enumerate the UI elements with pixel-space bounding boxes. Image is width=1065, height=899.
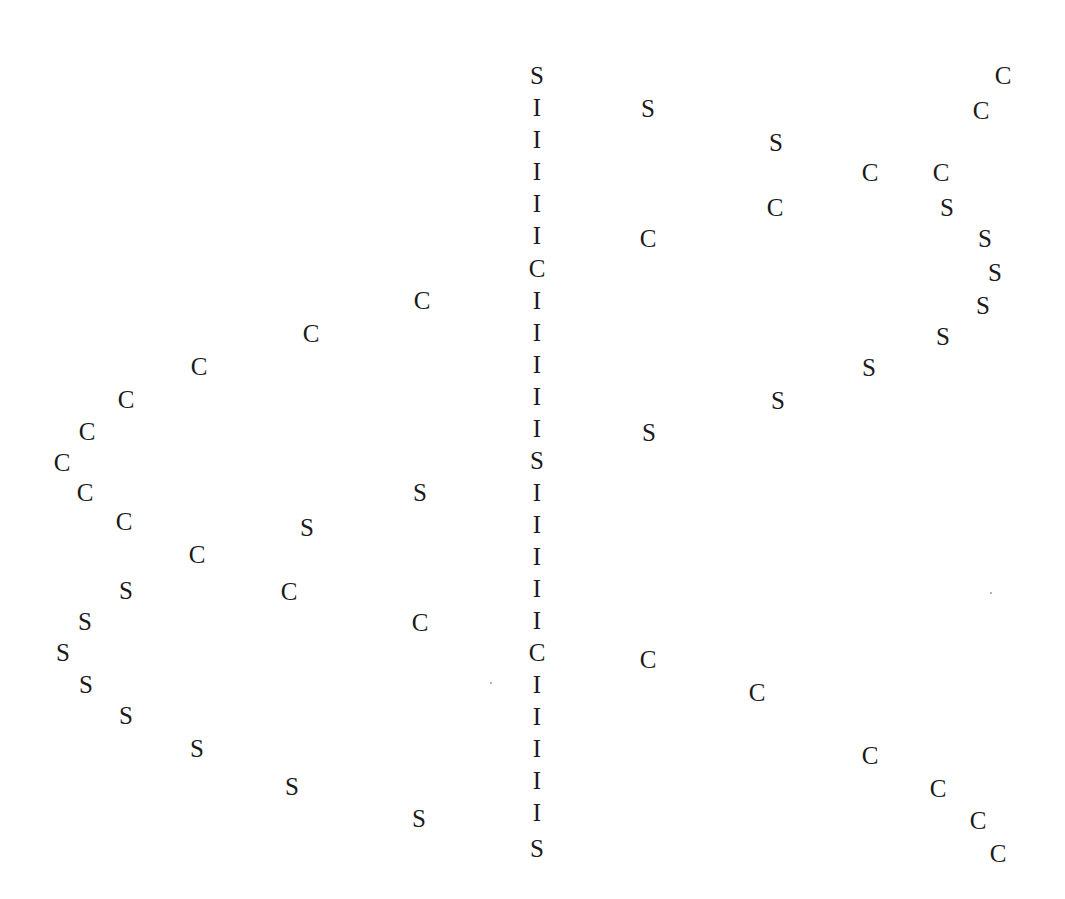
scatter-point-s: S (988, 260, 1002, 285)
scatter-point-c: C (995, 63, 1012, 88)
scatter-point-c: C (973, 98, 990, 123)
scatter-point-c: C (54, 450, 71, 475)
scatter-point-c: C (933, 160, 950, 185)
scatter-point-i: I (533, 608, 541, 633)
scatter-point-s: S (940, 195, 954, 220)
scatter-point-s: S (530, 836, 544, 861)
scatter-point-i: I (533, 704, 541, 729)
scatter-point-c: C (767, 195, 784, 220)
scatter-point-s: S (862, 355, 876, 380)
scatter-point-s: S (190, 736, 204, 761)
scatter-point-i: I (533, 800, 541, 825)
scatter-point-i: I (533, 672, 541, 697)
scatter-point-c: C (281, 579, 298, 604)
scan-speck (490, 682, 492, 684)
scatter-point-c: C (930, 776, 947, 801)
scatter-figure: SIIIIICIIIIISIIIIICIIIIISCCCCCCCCCCCSSSS… (0, 0, 1065, 899)
scatter-point-i: I (533, 223, 541, 248)
scatter-point-s: S (56, 640, 70, 665)
scatter-point-c: C (118, 387, 135, 412)
scatter-point-c: C (970, 808, 987, 833)
scatter-point-s: S (285, 774, 299, 799)
scatter-point-i: I (533, 512, 541, 537)
scatter-point-c: C (191, 354, 208, 379)
scatter-point-c: C (116, 509, 133, 534)
scan-speck (990, 592, 992, 594)
scatter-point-i: I (533, 127, 541, 152)
scatter-point-c: C (640, 647, 657, 672)
scatter-point-c: C (414, 288, 431, 313)
scatter-point-i: I (533, 352, 541, 377)
scatter-point-c: C (862, 160, 879, 185)
scatter-point-c: C (189, 542, 206, 567)
scatter-point-s: S (78, 609, 92, 634)
scatter-point-i: I (533, 416, 541, 441)
scatter-point-s: S (978, 226, 992, 251)
scatter-point-c: C (990, 841, 1007, 866)
scatter-point-c: C (640, 226, 657, 251)
scatter-point-s: S (769, 130, 783, 155)
scatter-point-i: I (533, 480, 541, 505)
scatter-point-i: I (533, 159, 541, 184)
scatter-point-c: C (412, 610, 429, 635)
scatter-point-i: I (533, 544, 541, 569)
scatter-point-s: S (119, 578, 133, 603)
scatter-point-i: I (533, 384, 541, 409)
scatter-point-s: S (936, 324, 950, 349)
scatter-point-i: I (533, 288, 541, 313)
scatter-point-i: I (533, 768, 541, 793)
scatter-point-s: S (119, 703, 133, 728)
scatter-point-i: I (533, 736, 541, 761)
scatter-point-c: C (303, 321, 320, 346)
scatter-point-i: I (533, 576, 541, 601)
scatter-point-s: S (641, 96, 655, 121)
scatter-point-s: S (530, 63, 544, 88)
scatter-point-s: S (412, 806, 426, 831)
scatter-point-i: I (533, 95, 541, 120)
scatter-point-c: C (529, 640, 546, 665)
scatter-point-s: S (530, 448, 544, 473)
scatter-point-i: I (533, 320, 541, 345)
scatter-point-c: C (749, 680, 766, 705)
scatter-point-s: S (642, 420, 656, 445)
scatter-point-s: S (300, 515, 314, 540)
scatter-point-s: S (976, 293, 990, 318)
scatter-point-c: C (77, 480, 94, 505)
scatter-point-i: I (533, 191, 541, 216)
scatter-point-s: S (413, 480, 427, 505)
scatter-point-c: C (862, 743, 879, 768)
scatter-point-s: S (79, 672, 93, 697)
scatter-point-c: C (79, 419, 96, 444)
scatter-point-c: C (529, 256, 546, 281)
scatter-point-s: S (771, 388, 785, 413)
